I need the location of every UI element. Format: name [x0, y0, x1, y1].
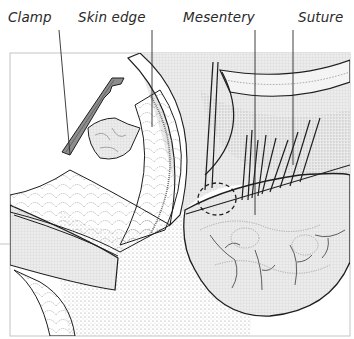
- surgical-illustration: [0, 0, 354, 339]
